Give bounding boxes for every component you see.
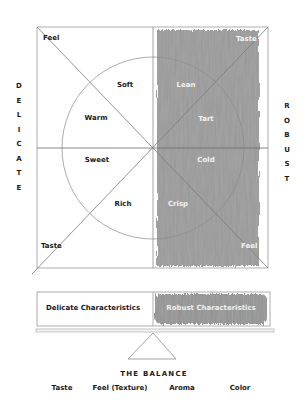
robust-letter: U: [280, 143, 294, 158]
delicate-letter: T: [12, 166, 26, 181]
robust-side-label: ROBUST: [280, 99, 294, 186]
balance-title: THE BALANCE: [0, 370, 308, 378]
corner-label-bottom-left: Taste: [41, 242, 62, 250]
scale-beam: [36, 329, 274, 332]
delicate-letter: I: [12, 123, 26, 138]
corner-label-top-left: Feel: [43, 34, 59, 42]
delicate-characteristics-label: Delicate Characteristics: [46, 304, 140, 312]
robust-letter: T: [280, 172, 294, 187]
quality-rich: Rich: [115, 200, 132, 208]
delicate-letter: E: [12, 94, 26, 109]
quality-lean: Lean: [177, 81, 196, 89]
balance-diagram: [0, 0, 308, 417]
robust-letter: S: [280, 157, 294, 172]
quality-soft: Soft: [117, 81, 133, 89]
quality-crisp: Crisp: [168, 200, 188, 208]
robust-letter: B: [280, 128, 294, 143]
robust-letter: R: [280, 99, 294, 114]
quality-warm: Warm: [85, 114, 108, 122]
quality-tart: Tart: [198, 115, 213, 123]
corner-label-top-right: Taste: [236, 35, 257, 43]
factor-color: Color: [230, 384, 251, 392]
corner-label-bottom-right: Feel: [241, 242, 257, 250]
delicate-letter: D: [12, 79, 26, 94]
factor-aroma: Aroma: [169, 384, 195, 392]
quality-cold: Cold: [197, 156, 214, 164]
factor-list: Taste Feel (Texture) Aroma Color: [0, 384, 308, 396]
robust-letter: O: [280, 114, 294, 129]
robust-characteristics-label: Robust Characteristics: [166, 304, 256, 312]
delicate-letter: L: [12, 108, 26, 123]
delicate-letter: E: [12, 181, 26, 196]
factor-taste: Taste: [52, 384, 73, 392]
fulcrum: [128, 333, 176, 359]
delicate-side-label: DELICATE: [12, 79, 26, 195]
delicate-letter: A: [12, 152, 26, 167]
delicate-letter: C: [12, 137, 26, 152]
factor-feel-texture: Feel (Texture): [93, 384, 148, 392]
quality-sweet: Sweet: [85, 156, 109, 164]
